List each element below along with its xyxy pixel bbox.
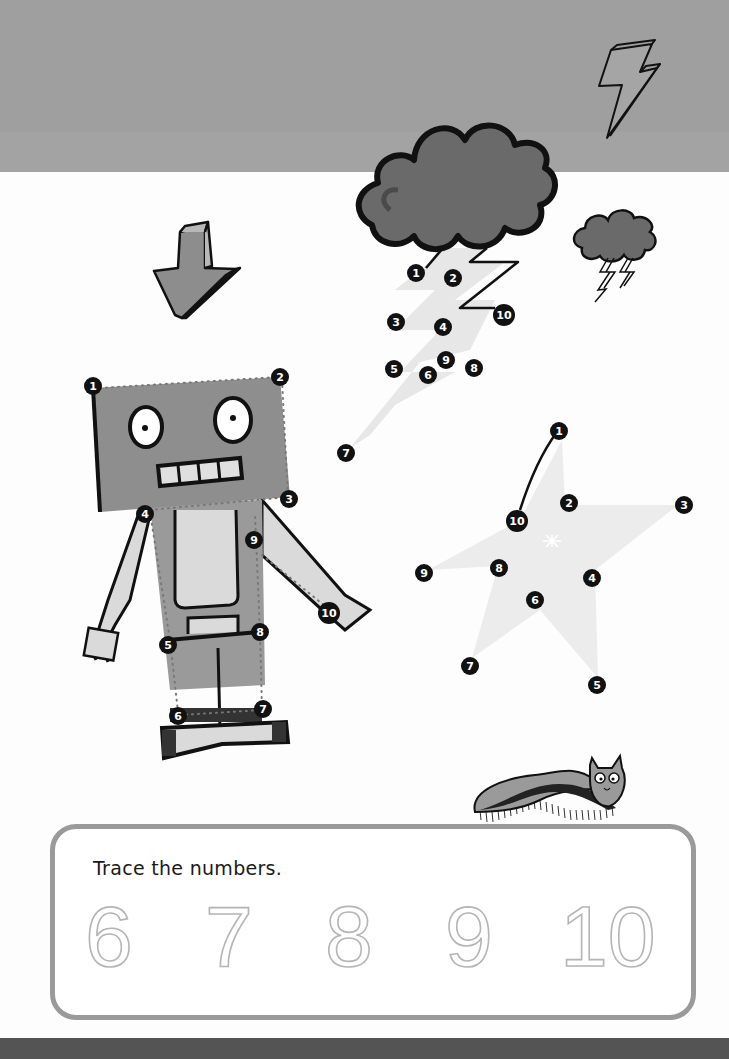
trace-digit-7[interactable]: 7 [205, 891, 253, 981]
lightning-dot-6[interactable]: 6 [419, 366, 437, 384]
trace-digit-8[interactable]: 8 [325, 891, 373, 981]
robot-dot-4[interactable]: 4 [136, 505, 154, 523]
svg-text:8: 8 [495, 562, 503, 575]
svg-text:6: 6 [424, 369, 432, 382]
svg-text:4: 4 [588, 572, 596, 585]
svg-text:4: 4 [439, 321, 447, 334]
svg-text:10: 10 [509, 515, 525, 528]
lightning-bolt-icon [599, 40, 660, 138]
trace-digit-10[interactable]: 10 [560, 891, 656, 981]
lightning-dot-2[interactable]: 2 [444, 269, 462, 287]
lightning-dot-5[interactable]: 5 [385, 360, 403, 378]
robot-dot-2[interactable]: 2 [271, 368, 289, 386]
svg-text:7: 7 [342, 447, 350, 460]
robot-dot-3[interactable]: 3 [280, 490, 298, 508]
robot-dot-1[interactable]: 1 [84, 377, 102, 395]
robot-dot-7[interactable]: 7 [254, 700, 272, 718]
trace-numbers-panel: Trace the numbers. 6 7 8 9 10 [50, 824, 696, 1020]
robot-dot-10[interactable]: 10 [318, 602, 340, 624]
svg-text:5: 5 [164, 639, 172, 652]
svg-text:3: 3 [285, 493, 293, 506]
star-dot-7[interactable]: 7 [461, 657, 479, 675]
lightning-dot-1[interactable]: 1 [407, 264, 425, 282]
lightning-dot-7[interactable]: 7 [337, 444, 355, 462]
svg-text:5: 5 [390, 363, 398, 376]
svg-text:9: 9 [420, 567, 428, 580]
svg-text:3: 3 [392, 316, 400, 329]
caterpillar-cat-icon [475, 756, 625, 822]
svg-text:1: 1 [555, 425, 563, 438]
svg-text:1: 1 [412, 267, 420, 280]
star-puzzle-shape [428, 432, 678, 678]
svg-text:3: 3 [680, 499, 688, 512]
svg-text:7: 7 [259, 703, 267, 716]
trace-instructions: Trace the numbers. [93, 857, 282, 879]
lightning-dot-10[interactable]: 10 [493, 304, 515, 326]
star-dot-10[interactable]: 10 [506, 510, 528, 532]
robot-puzzle-shape [84, 377, 370, 758]
star-dot-9[interactable]: 9 [415, 564, 433, 582]
storm-cloud-large-icon [359, 125, 555, 249]
lightning-dot-3[interactable]: 3 [387, 313, 405, 331]
svg-text:9: 9 [442, 354, 450, 367]
svg-text:8: 8 [256, 626, 264, 639]
svg-text:6: 6 [531, 594, 539, 607]
robot-dot-8[interactable]: 8 [251, 623, 269, 641]
svg-text:6: 6 [174, 710, 182, 723]
robot-dot-6[interactable]: 6 [169, 707, 187, 725]
trace-digit-9[interactable]: 9 [445, 891, 493, 981]
trace-digit-row: 6 7 8 9 10 [55, 891, 691, 981]
robot-dot-9[interactable]: 9 [245, 531, 263, 549]
robot-dot-5[interactable]: 5 [159, 636, 177, 654]
svg-text:1: 1 [89, 380, 97, 393]
svg-text:10: 10 [496, 309, 512, 322]
star-dot-4[interactable]: 4 [583, 569, 601, 587]
svg-text:8: 8 [470, 362, 478, 375]
trace-digit-6[interactable]: 6 [85, 891, 133, 981]
star-dot-2[interactable]: 2 [560, 494, 578, 512]
down-arrow-icon [154, 222, 240, 318]
lightning-dot-9[interactable]: 9 [437, 351, 455, 369]
storm-cloud-small-icon [574, 210, 655, 302]
lightning-dot-4[interactable]: 4 [434, 318, 452, 336]
svg-text:9: 9 [250, 534, 258, 547]
svg-text:4: 4 [141, 508, 149, 521]
star-dot-8[interactable]: 8 [490, 559, 508, 577]
svg-text:5: 5 [593, 679, 601, 692]
svg-text:2: 2 [276, 371, 284, 384]
lightning-dot-8[interactable]: 8 [465, 359, 483, 377]
star-dot-5[interactable]: 5 [588, 676, 606, 694]
star-dot-1[interactable]: 1 [550, 422, 568, 440]
star-dot-6[interactable]: 6 [526, 591, 544, 609]
svg-text:10: 10 [321, 607, 337, 620]
lightning-puzzle-shape [350, 248, 505, 448]
svg-text:2: 2 [565, 497, 573, 510]
svg-text:7: 7 [466, 660, 474, 673]
star-dot-3[interactable]: 3 [675, 496, 693, 514]
svg-text:2: 2 [449, 272, 457, 285]
